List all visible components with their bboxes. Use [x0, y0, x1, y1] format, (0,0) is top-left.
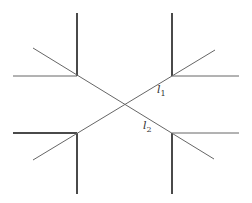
- top-right-junction: [172, 13, 239, 76]
- diagram-canvas: [0, 0, 252, 203]
- bottom-left-junction: [13, 133, 77, 194]
- diagonal-line-ascending: [33, 50, 215, 160]
- label-l2: l2: [143, 120, 152, 134]
- label-l1: l1: [157, 84, 166, 98]
- top-left-junction: [13, 13, 77, 76]
- bottom-right-junction: [172, 133, 239, 194]
- diagonal-line-descending: [33, 48, 214, 159]
